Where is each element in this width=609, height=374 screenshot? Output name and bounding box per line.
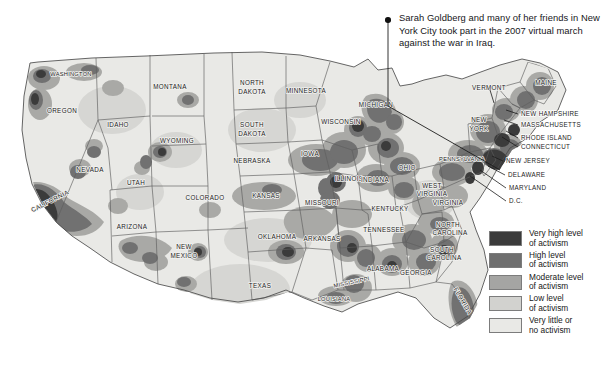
- legend-row: High level of activism: [489, 251, 583, 270]
- state-label-north: NORTH: [436, 221, 460, 228]
- state-label-oregon: OREGON: [47, 107, 77, 114]
- legend-swatch: [489, 253, 522, 268]
- state-label-north: NORTH: [240, 79, 264, 86]
- leader-label-rhode-island: RHODE ISLAND: [521, 134, 572, 141]
- state-label-missouri: MISSOURI: [305, 199, 339, 206]
- state-label-west: WEST: [422, 182, 442, 189]
- state-label-ohio: OHIO: [398, 164, 416, 171]
- state-label-kentucky: KENTUCKY: [371, 205, 409, 212]
- legend-swatch: [489, 296, 522, 311]
- state-label-montana: MONTANA: [153, 83, 187, 90]
- state-label-oklahoma: OKLAHOMA: [258, 233, 297, 240]
- state-label-nevada: NEVADA: [76, 166, 104, 173]
- legend-row: Very high level of activism: [489, 229, 583, 248]
- legend-label: Very little or no activism: [529, 316, 572, 335]
- state-label-south: SOUTH: [430, 246, 454, 253]
- legend-label: High level of activism: [529, 251, 568, 270]
- leader-label-d-c-: D.C.: [509, 197, 523, 204]
- state-label-wyoming: WYOMING: [160, 137, 194, 144]
- state-label-colorado: COLORADO: [186, 194, 225, 201]
- state-label-dakota: DAKOTA: [238, 130, 266, 137]
- state-label-indiana: INDIANA: [361, 176, 389, 183]
- legend-row: Moderate level of activism: [489, 273, 583, 292]
- leader-label-new-hampshire: NEW HAMPSHIRE: [521, 110, 579, 117]
- state-label-arizona: ARIZONA: [117, 223, 148, 230]
- state-label-arkansas: ARKANSAS: [303, 235, 340, 242]
- state-label-maine: MAINE: [535, 79, 557, 86]
- legend-label: Very high level of activism: [529, 229, 583, 248]
- legend-row: Low level of activism: [489, 294, 583, 313]
- callout-text: Sarah Goldberg and many of her friends i…: [399, 12, 607, 50]
- state-label-york: YORK: [469, 125, 489, 132]
- legend-label: Moderate level of activism: [529, 273, 583, 292]
- legend-label: Low level of activism: [529, 294, 568, 313]
- state-label-alabama: ALABAMA: [367, 265, 400, 272]
- map-legend: Very high level of activismHigh level of…: [489, 229, 583, 338]
- state-label-nebraska: NEBRASKA: [233, 157, 271, 164]
- state-label-carolina: CAROLINA: [433, 229, 468, 236]
- leader-label-massachusetts: MASSACHUSETTS: [521, 121, 581, 128]
- state-label-utah: UTAH: [127, 179, 145, 186]
- leader-label-new-jersey: NEW JERSEY: [506, 157, 550, 164]
- state-label-dakota: DAKOTA: [238, 88, 266, 95]
- callout-dot-icon: [385, 17, 391, 23]
- state-label-new: NEW: [471, 116, 487, 123]
- leader-label-delaware: DELAWARE: [508, 171, 545, 178]
- state-label-wisconsin: WISCONSIN: [321, 118, 361, 125]
- legend-swatch: [489, 275, 522, 290]
- leader-label-maryland: MARYLAND: [509, 184, 546, 191]
- state-label-carolina: CAROLINA: [427, 254, 462, 261]
- state-label-vermont: VERMONT: [472, 84, 506, 91]
- state-label-georgia: GEORGIA: [400, 269, 432, 276]
- legend-swatch: [489, 231, 522, 246]
- state-label-pennsylvania: PENNSYLVANIA: [439, 156, 485, 162]
- state-label-texas: TEXAS: [249, 282, 271, 289]
- state-label-new: NEW: [176, 243, 192, 250]
- state-label-tennessee: TENNESSEE: [363, 226, 404, 233]
- leader-label-connecticut: CONNECTICUT: [521, 143, 570, 150]
- legend-swatch: [489, 318, 522, 333]
- legend-row: Very little or no activism: [489, 316, 583, 335]
- state-label-idaho: IDAHO: [107, 121, 129, 128]
- state-label-washington: WASHINGTON: [50, 71, 91, 77]
- state-label-south: SOUTH: [240, 121, 264, 128]
- state-label-virginia: VIRGINIA: [417, 190, 448, 197]
- state-label-louisiana: LOUISIANA: [318, 296, 351, 302]
- state-label-minnesota: MINNESOTA: [286, 87, 327, 94]
- us-activism-map-figure: WASHINGTONOREGONIDAHOMONTANAWYOMINGNEVAD…: [0, 0, 609, 374]
- state-label-iowa: IOWA: [301, 150, 319, 157]
- state-label-mexico: MEXICO: [171, 252, 198, 259]
- state-label-kansas: KANSAS: [252, 192, 280, 199]
- state-label-illinois: ILLINOIS: [335, 175, 364, 182]
- state-label-virginia: VIRGINIA: [433, 199, 464, 206]
